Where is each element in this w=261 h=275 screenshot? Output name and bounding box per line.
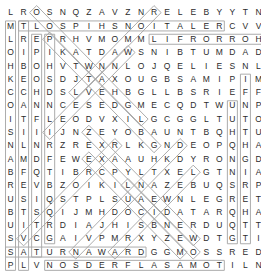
grid-cell: Q (43, 192, 56, 205)
grid-cell: A (135, 192, 148, 205)
grid-cell: R (4, 179, 17, 192)
grid-cell: V (17, 232, 30, 245)
grid-cell: D (135, 245, 148, 258)
grid-cell: L (121, 59, 134, 72)
grid-cell: X (95, 139, 108, 152)
grid-cell: Q (161, 59, 174, 72)
grid-cell: L (135, 166, 148, 179)
grid-cell: Z (161, 179, 174, 192)
grid-cell: P (69, 19, 82, 32)
grid-cell: D (226, 46, 239, 59)
grid-cell: T (239, 112, 252, 125)
grid-cell: D (174, 152, 187, 165)
grid-cell: H (30, 86, 43, 99)
grid-cell: H (95, 206, 108, 219)
grid-cell: T (17, 19, 30, 32)
grid-cell: Q (43, 206, 56, 219)
grid-cell: B (121, 86, 134, 99)
grid-cell: T (252, 192, 261, 205)
grid-cell: G (148, 139, 161, 152)
grid-cell: D (252, 152, 261, 165)
grid-cell: T (239, 126, 252, 139)
grid-cell: D (252, 46, 261, 59)
grid-cell: N (239, 99, 252, 112)
grid-cell: T (213, 232, 226, 245)
grid-cell: E (30, 33, 43, 46)
grid-cell: E (56, 152, 69, 165)
grid-cell: T (239, 232, 252, 245)
grid-cell: U (226, 112, 239, 125)
grid-cell: N (239, 59, 252, 72)
grid-cell: R (239, 179, 252, 192)
grid-cell: B (187, 179, 200, 192)
grid-cell: L (135, 259, 148, 272)
grid-cell: E (95, 259, 108, 272)
grid-cell: I (69, 219, 82, 232)
grid-cell: A (82, 245, 95, 258)
grid-cell: H (69, 33, 82, 46)
grid-cell: V (108, 6, 121, 19)
grid-cell: I (213, 73, 226, 86)
grid-cell: A (174, 19, 187, 32)
grid-cell: A (174, 206, 187, 219)
grid-cell: W (161, 192, 174, 205)
grid-cell: X (95, 152, 108, 165)
grid-cell: F (43, 152, 56, 165)
grid-cell: A (121, 152, 134, 165)
grid-cell: L (161, 86, 174, 99)
grid-cell: E (82, 152, 95, 165)
grid-cell: D (56, 73, 69, 86)
grid-cell: L (4, 6, 17, 19)
grid-cell: D (56, 219, 69, 232)
grid-cell: R (121, 232, 134, 245)
grid-cell: L (121, 179, 134, 192)
grid-cell: C (161, 99, 174, 112)
grid-cell: A (252, 166, 261, 179)
grid-cell: U (135, 152, 148, 165)
grid-cell: K (56, 46, 69, 59)
grid-cell: Q (69, 6, 82, 19)
grid-cell: C (135, 206, 148, 219)
grid-cell: A (239, 46, 252, 59)
grid-cell: D (95, 46, 108, 59)
grid-cell: J (95, 219, 108, 232)
grid-cell: C (56, 99, 69, 112)
grid-cell: E (187, 139, 200, 152)
grid-cell: W (95, 245, 108, 258)
grid-cell: E (174, 232, 187, 245)
grid-cell: Q (226, 139, 239, 152)
grid-cell: I (161, 46, 174, 59)
grid-cell: R (56, 33, 69, 46)
grid-cell: M (108, 232, 121, 245)
grid-cell: T (213, 259, 226, 272)
grid-cell: L (187, 19, 200, 32)
grid-cell: T (43, 166, 56, 179)
grid-cell: N (135, 179, 148, 192)
grid-cell: S (4, 245, 17, 258)
grid-cell: T (69, 192, 82, 205)
grid-cell: E (187, 6, 200, 19)
grid-cell: R (200, 86, 213, 99)
grid-cell: P (82, 192, 95, 205)
grid-cell: W (82, 59, 95, 72)
grid-cell: P (30, 46, 43, 59)
grid-cell: R (56, 245, 69, 258)
grid-cell: S (135, 46, 148, 59)
grid-cell: C (30, 232, 43, 245)
grid-cell: O (121, 126, 134, 139)
grid-cell: S (213, 245, 226, 258)
grid-cell: E (82, 139, 95, 152)
grid-cell: V (82, 86, 95, 99)
grid-cell: R (226, 33, 239, 46)
grid-cell: J (69, 73, 82, 86)
grid-cell: I (17, 219, 30, 232)
grid-cell: I (56, 166, 69, 179)
grid-cell: S (43, 73, 56, 86)
grid-cell: M (4, 19, 17, 32)
grid-cell: E (174, 166, 187, 179)
grid-cell: I (121, 219, 134, 232)
grid-cell: D (187, 99, 200, 112)
grid-cell: G (200, 166, 213, 179)
grid-cell: W (187, 232, 200, 245)
grid-cell: R (43, 139, 56, 152)
